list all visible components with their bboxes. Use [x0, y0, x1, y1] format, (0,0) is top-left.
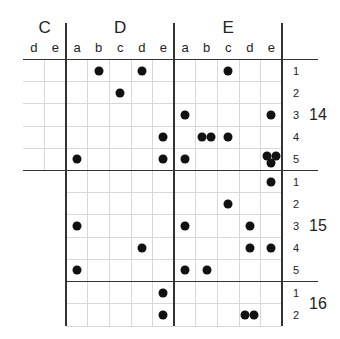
column-label: b [203, 41, 210, 54]
dot-marker [241, 310, 250, 319]
column-label: e [268, 41, 275, 54]
dot-marker [181, 266, 190, 275]
dot-marker [224, 133, 233, 142]
dot-grid-diagram: CdeDabcdeEabcde123451412345151216 [0, 0, 340, 339]
row-label: 1 [293, 287, 299, 298]
column-label: d [30, 41, 37, 54]
grid-line [23, 103, 282, 104]
dot-marker [250, 310, 259, 319]
row-label: 1 [293, 65, 299, 76]
row-label: 1 [293, 176, 299, 187]
column-label: c [117, 41, 124, 54]
column-label: c [225, 41, 232, 54]
dot-marker [137, 66, 146, 75]
dot-marker [267, 159, 276, 168]
row-label: 2 [293, 87, 299, 98]
dot-marker [224, 66, 233, 75]
dot-marker [159, 155, 168, 164]
column-label: b [95, 41, 102, 54]
row-label: 5 [293, 265, 299, 276]
section-label-15: 15 [309, 218, 327, 234]
grid-line [23, 126, 282, 127]
grid-line [44, 60, 45, 171]
column-label: a [181, 41, 188, 54]
section-label-16: 16 [309, 296, 327, 312]
group-label-d: D [114, 19, 126, 36]
dot-marker [159, 310, 168, 319]
grid-line [23, 148, 282, 149]
dot-marker [245, 244, 254, 253]
dot-marker [159, 133, 168, 142]
group-label-e: E [223, 19, 234, 36]
dot-marker [207, 133, 216, 142]
section-label-14: 14 [309, 107, 327, 123]
header-rule [23, 59, 318, 61]
column-label: d [138, 41, 145, 54]
row-label: 4 [293, 132, 299, 143]
row-label: 4 [293, 243, 299, 254]
dot-marker [224, 199, 233, 208]
row-label: 2 [293, 309, 299, 320]
dot-marker [159, 288, 168, 297]
dot-marker [73, 155, 82, 164]
row-label: 3 [293, 110, 299, 121]
column-label: a [73, 41, 80, 54]
column-label: d [246, 41, 253, 54]
column-label: e [52, 41, 59, 54]
dot-marker [181, 222, 190, 231]
dot-marker [73, 222, 82, 231]
grid-line [23, 81, 282, 82]
dot-marker [202, 266, 211, 275]
dot-marker [116, 88, 125, 97]
dot-marker [245, 222, 254, 231]
group-label-c: C [38, 19, 50, 36]
section-rule [23, 170, 318, 172]
row-label: 5 [293, 154, 299, 165]
dot-marker [198, 133, 207, 142]
dot-marker [267, 177, 276, 186]
dot-marker [73, 266, 82, 275]
row-label: 2 [293, 198, 299, 209]
dot-marker [181, 111, 190, 120]
column-label: e [160, 41, 167, 54]
dot-marker [181, 155, 190, 164]
dot-marker [137, 244, 146, 253]
dot-marker [267, 244, 276, 253]
dot-marker [267, 111, 276, 120]
row-label: 3 [293, 221, 299, 232]
dot-marker [94, 66, 103, 75]
section-rule [66, 281, 318, 283]
